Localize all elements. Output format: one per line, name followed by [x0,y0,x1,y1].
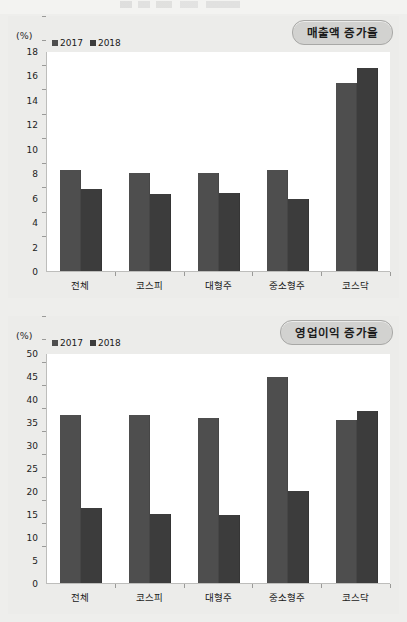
y-tick-mark [42,477,46,478]
bar-2017 [129,173,150,271]
bar-2018 [357,68,378,271]
legend-item-2017: 2017 [52,338,83,348]
y-tick-label: 6 [32,194,38,204]
y-tick-label: 40 [27,395,38,405]
legend-label-2017: 2017 [60,338,83,348]
bar-2017 [129,415,150,583]
bar-2018 [150,514,171,583]
y-tick-mark [42,40,46,41]
plot-area-profit [46,354,390,584]
y-tick-mark [42,362,46,363]
y-tick-mark [42,163,46,164]
legend-swatch-2018 [90,340,96,346]
x-tick-label: 중소형주 [269,278,305,292]
legend-item-2018: 2018 [90,38,121,48]
y-tick-label: 18 [27,47,38,57]
bar-2017 [336,420,357,583]
y-tick-label: 0 [32,267,38,277]
y-tick-label: 30 [27,441,38,451]
y-tick-label: 10 [27,145,38,155]
faded-header-text [120,1,240,8]
y-tick-mark [42,138,46,139]
y-tick-label: 14 [27,96,38,106]
legend-profit: 2017 2018 [52,338,121,348]
x-tick-mark [184,584,185,588]
bar-2018 [219,193,240,271]
bar-2017 [336,83,357,271]
y-tick-mark [42,546,46,547]
bar-2017 [60,170,81,271]
bar-series-profit [47,354,390,583]
y-tick-mark [42,114,46,115]
y-tick-mark [42,431,46,432]
x-tick-mark [115,272,116,276]
y-tick-mark [42,500,46,501]
bar-2018 [150,194,171,271]
bar-2018 [81,189,102,271]
bar-2018 [357,411,378,583]
y-tick-mark [42,339,46,340]
x-tick-mark [390,584,391,588]
y-tick-mark [42,408,46,409]
y-tick-mark [42,187,46,188]
y-tick-label: 0 [32,579,38,589]
scanned-report-page: 매출액 증가율 (%) 2017 2018 024681012141618 전체… [0,0,407,622]
x-tick-label: 전체 [71,278,89,292]
y-axis-unit-label-profit: (%) [16,330,32,341]
y-tick-label: 50 [27,349,38,359]
y-tick-label: 8 [32,169,38,179]
bar-2017 [60,415,81,583]
y-tick-label: 20 [27,487,38,497]
y-axis-labels-profit: 05101520253035404550 [8,354,38,584]
x-axis-labels-profit: 전체코스피대형주중소형주코스닥 [8,590,399,606]
x-tick-mark [390,272,391,276]
y-tick-mark [42,236,46,237]
bar-group [185,354,254,583]
x-axis-labels-sales: 전체코스피대형주중소형주코스닥 [8,278,399,294]
bar-series-sales [47,52,390,271]
bar-2017 [267,170,288,271]
chart-panel-profit: 영업이익 증가율 (%) 2017 2018 05101520253035404… [8,316,399,614]
legend-item-2018: 2018 [90,338,121,348]
y-tick-mark [42,89,46,90]
chart-panel-sales: 매출액 증가율 (%) 2017 2018 024681012141618 전체… [8,16,399,298]
legend-label-2018: 2018 [98,338,121,348]
y-tick-mark [42,212,46,213]
bar-2018 [81,508,102,583]
bar-group [322,354,391,583]
x-tick-mark [184,272,185,276]
legend-label-2018: 2018 [98,38,121,48]
x-tick-label: 대형주 [205,278,232,292]
legend-swatch-2017 [52,340,58,346]
x-tick-label: 대형주 [205,590,232,604]
x-tick-label: 코스피 [136,278,163,292]
bar-group [47,52,116,271]
y-tick-label: 25 [27,464,38,474]
bar-2017 [198,418,219,583]
y-tick-label: 45 [27,372,38,382]
y-tick-label: 16 [27,71,38,81]
y-tick-mark [42,454,46,455]
x-tick-label: 전체 [71,590,89,604]
y-tick-mark [42,16,46,17]
bar-group [47,354,116,583]
legend-swatch-2017 [52,40,58,46]
bar-2018 [288,491,309,583]
x-tick-mark [115,584,116,588]
bar-2017 [267,377,288,583]
x-tick-mark [252,584,253,588]
chart-title-badge-sales: 매출액 증가율 [292,20,393,45]
bar-group [116,52,185,271]
plot-area-sales [46,52,390,272]
x-tick-mark [252,272,253,276]
bar-group [253,52,322,271]
legend-swatch-2018 [90,40,96,46]
chart-title-badge-profit: 영업이익 증가율 [280,320,393,345]
y-tick-label: 15 [27,510,38,520]
y-tick-mark [42,523,46,524]
y-axis-labels-sales: 024681012141618 [8,52,38,272]
y-tick-label: 12 [27,120,38,130]
scan-artifact-strip [0,0,407,14]
legend-sales: 2017 2018 [52,38,121,48]
y-tick-label: 35 [27,418,38,428]
